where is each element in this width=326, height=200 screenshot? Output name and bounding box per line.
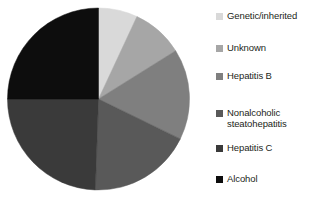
legend-item[interactable]: Nonalcoholic steatohepatitis [216,108,287,129]
legend-item[interactable]: Hepatitis B [216,71,272,82]
legend-item-label: Alcohol [227,174,257,185]
legend-color-swatch-icon [216,176,223,183]
pie-chart-figure: Genetic/inheritedUnknownHepatitis BNonal… [0,0,326,200]
legend-color-swatch-icon [216,45,223,52]
legend-color-swatch-icon [216,13,223,20]
pie-slice[interactable] [8,99,99,190]
legend-item-label: Genetic/inherited [227,11,297,22]
legend-item[interactable]: Alcohol [216,174,257,185]
pie-slice[interactable] [8,8,99,99]
legend-item[interactable]: Unknown [216,43,266,54]
legend-item-label: Unknown [227,43,266,54]
chart-legend: Genetic/inheritedUnknownHepatitis BNonal… [216,0,326,200]
legend-color-swatch-icon [216,73,223,80]
legend-item-label: Hepatitis B [227,71,272,82]
legend-color-swatch-icon [216,145,223,152]
legend-item[interactable]: Hepatitis C [216,143,272,154]
pie-slice-group [8,8,190,190]
legend-item-label: Nonalcoholic steatohepatitis [227,108,287,129]
pie-chart-plot-area [0,0,200,200]
legend-item[interactable]: Genetic/inherited [216,11,297,22]
legend-color-swatch-icon [216,110,223,117]
pie-chart-svg [0,0,200,200]
legend-item-label: Hepatitis C [227,143,272,154]
